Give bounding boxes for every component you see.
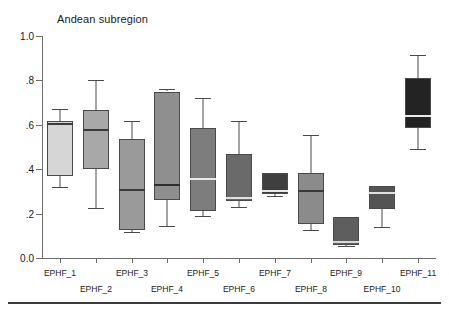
whisker-cap-lower: [410, 149, 426, 150]
whisker-lower: [382, 209, 383, 227]
x-axis-label-ephf_9: EPHF_9: [330, 268, 362, 278]
box-rect: [47, 121, 73, 175]
x-axis-label-ephf_4: EPHF_4: [151, 284, 183, 294]
median-line: [226, 197, 252, 199]
whisker-cap-upper: [303, 135, 319, 136]
whisker-cap-lower: [303, 230, 319, 231]
whisker-cap-lower: [231, 207, 247, 208]
x-axis-label-ephf_6: EPHF_6: [223, 284, 255, 294]
box-plot-item[interactable]: [405, 36, 431, 258]
y-axis-tick-label: .2: [0, 208, 34, 219]
whisker-cap-lower: [52, 187, 68, 188]
whisker-cap-upper: [52, 109, 68, 110]
whisker-upper: [95, 80, 96, 110]
box-plot-item[interactable]: [262, 36, 288, 258]
x-axis-label-ephf_2: EPHF_2: [80, 284, 112, 294]
whisker-cap-lower: [338, 246, 354, 247]
whisker-upper: [310, 135, 311, 173]
whisker-cap-upper: [410, 55, 426, 56]
median-line: [119, 189, 145, 191]
y-axis-tick-label: 0.0: [0, 253, 34, 264]
whisker-upper: [131, 121, 132, 139]
x-axis-label-ephf_10: EPHF_10: [364, 284, 401, 294]
median-line: [405, 115, 431, 117]
whisker-lower: [418, 128, 419, 149]
x-axis-label-ephf_11: EPHF_11: [400, 268, 436, 278]
whisker-cap-upper: [195, 98, 211, 99]
x-axis-tick: [239, 258, 240, 263]
whisker-lower: [310, 224, 311, 231]
whisker-cap-lower: [123, 232, 139, 233]
median-line: [333, 241, 359, 243]
x-axis-label-ephf_5: EPHF_5: [187, 268, 219, 278]
whisker-cap-upper: [231, 121, 247, 122]
box-plot-item[interactable]: [369, 36, 395, 258]
whisker-cap-upper: [123, 121, 139, 122]
box-plot-chart: Andean subregion 0.0.2.4.6.81.0 EPHF_1EP…: [0, 0, 449, 311]
y-axis-tick: [36, 169, 42, 170]
box-rect: [83, 110, 109, 169]
x-axis-label-ephf_3: EPHF_3: [116, 268, 148, 278]
chart-title: Andean subregion: [57, 13, 148, 25]
x-axis-tick: [96, 258, 97, 263]
x-axis-label-ephf_8: EPHF_8: [295, 284, 327, 294]
x-axis-tick: [311, 258, 312, 263]
y-axis-tick: [36, 214, 42, 215]
median-line: [369, 192, 395, 194]
plot-area: [42, 36, 436, 258]
x-axis-tick: [275, 258, 276, 263]
box-plot-item[interactable]: [47, 36, 73, 258]
median-line: [47, 123, 73, 125]
box-plot-item[interactable]: [298, 36, 324, 258]
whisker-cap-lower: [159, 226, 175, 227]
median-line: [190, 178, 216, 180]
x-axis-tick: [203, 258, 204, 263]
y-axis-labels: 0.0.2.4.6.81.0: [0, 0, 36, 311]
bottom-rule: [8, 302, 441, 304]
whisker-cap-lower: [267, 196, 283, 197]
whisker-lower: [59, 176, 60, 187]
x-axis-tick: [346, 258, 347, 263]
median-line: [298, 190, 324, 192]
x-axis-tick: [382, 258, 383, 263]
box-rect: [369, 186, 395, 209]
box-rect: [298, 173, 324, 224]
box-rect: [119, 139, 145, 230]
y-axis-tick-label: .8: [0, 75, 34, 86]
median-line: [262, 190, 288, 192]
y-axis-tick-label: .4: [0, 164, 34, 175]
box-plot-item[interactable]: [83, 36, 109, 258]
whisker-upper: [418, 55, 419, 78]
box-plot-item[interactable]: [333, 36, 359, 258]
y-axis-tick: [36, 80, 42, 81]
whisker-upper: [203, 98, 204, 128]
y-axis-tick-label: .6: [0, 119, 34, 130]
box-plot-item[interactable]: [119, 36, 145, 258]
whisker-cap-upper: [159, 89, 175, 90]
x-axis-tick: [132, 258, 133, 263]
x-axis-tick: [60, 258, 61, 263]
whisker-cap-upper: [88, 80, 104, 81]
whisker-lower: [167, 200, 168, 226]
whisker-cap-lower: [88, 208, 104, 209]
y-axis-tick: [36, 36, 42, 37]
median-line: [83, 129, 109, 131]
box-plot-item[interactable]: [190, 36, 216, 258]
box-rect: [405, 78, 431, 128]
x-axis-tick: [418, 258, 419, 263]
whisker-cap-lower: [195, 216, 211, 217]
whisker-lower: [95, 169, 96, 208]
y-axis-tick: [36, 125, 42, 126]
box-rect: [226, 154, 252, 202]
whisker-upper: [239, 121, 240, 153]
whisker-upper: [59, 109, 60, 121]
x-axis-label-ephf_7: EPHF_7: [259, 268, 291, 278]
box-plot-item[interactable]: [154, 36, 180, 258]
median-line: [154, 184, 180, 186]
x-axis-tick: [167, 258, 168, 263]
x-axis-label-ephf_1: EPHF_1: [44, 268, 76, 278]
box-rect: [190, 128, 216, 211]
y-axis-tick: [36, 258, 42, 259]
box-plot-item[interactable]: [226, 36, 252, 258]
whisker-cap-lower: [374, 227, 390, 228]
